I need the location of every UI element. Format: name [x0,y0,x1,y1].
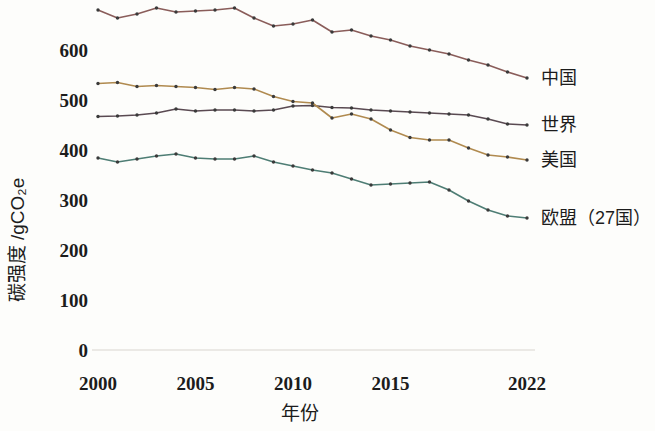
y-tick-label: 400 [60,140,89,161]
data-point [506,122,509,125]
data-point [311,101,314,104]
data-point [525,76,528,79]
data-point [369,108,372,111]
data-point [330,106,333,109]
series-line [98,154,527,218]
y-tick-label: 600 [60,40,89,61]
data-point [369,117,372,120]
data-point [116,16,119,19]
y-axis-tick-labels: 6005004003002001000 [60,40,89,361]
data-point [389,38,392,41]
data-point [116,160,119,163]
series-1 [96,104,528,127]
series-3 [96,152,528,219]
data-point [447,52,450,55]
data-point [252,154,255,157]
data-point [155,84,158,87]
data-point [408,136,411,139]
y-tick-label: 300 [60,190,89,211]
data-point [486,117,489,120]
data-point [272,24,275,27]
data-point [447,138,450,141]
data-point [369,183,372,186]
data-point [252,87,255,90]
data-point [467,113,470,116]
x-axis-title: 年份 [281,403,319,424]
series-line [98,106,527,126]
data-point [369,34,372,37]
data-point [525,123,528,126]
data-point [350,106,353,109]
data-point [272,160,275,163]
data-point [233,157,236,160]
legend-label[interactable]: 世界 [541,115,577,135]
x-tick-label: 2000 [79,373,117,394]
data-point [428,48,431,51]
data-point [213,8,216,11]
data-point [467,146,470,149]
data-point [291,22,294,25]
data-point [506,155,509,158]
data-point [525,216,528,219]
legend-label[interactable]: 中国 [541,68,577,88]
data-point [467,58,470,61]
legend-label[interactable]: 美国 [541,150,577,170]
data-point [135,85,138,88]
data-point [233,6,236,9]
y-tick-label: 200 [60,240,89,261]
data-point [272,95,275,98]
y-tick-label: 100 [60,290,89,311]
legend-label[interactable]: 欧盟（27国） [541,208,651,228]
data-point [428,138,431,141]
data-point [350,112,353,115]
x-tick-label: 2015 [372,373,410,394]
data-point [155,111,158,114]
data-point [428,111,431,114]
data-point [447,188,450,191]
x-axis-tick-labels: 20002005201020152022 [79,373,546,394]
data-point [116,81,119,84]
series-2 [96,81,528,162]
data-point [233,108,236,111]
data-point [311,18,314,21]
data-point [96,82,99,85]
line-chart: 6005004003002001000 20002005201020152022… [0,0,655,431]
data-point [525,158,528,161]
data-point [330,116,333,119]
data-point [311,168,314,171]
data-point [350,28,353,31]
data-point [135,157,138,160]
data-point [486,63,489,66]
data-point [428,180,431,183]
chart-legend: 中国世界美国欧盟（27国） [541,68,651,228]
data-point [96,115,99,118]
data-point [389,128,392,131]
data-point [96,156,99,159]
x-tick-label: 2022 [508,373,546,394]
data-point [174,152,177,155]
data-point [506,214,509,217]
data-point [174,107,177,110]
data-point [291,104,294,107]
series-line [98,83,527,161]
data-point [135,12,138,15]
data-point [408,110,411,113]
data-point [174,10,177,13]
data-point [506,70,509,73]
data-point [174,85,177,88]
x-tick-label: 2010 [274,373,312,394]
data-point [272,108,275,111]
data-point [96,8,99,11]
data-point [408,44,411,47]
data-point [408,181,411,184]
data-point [389,182,392,185]
data-point [330,30,333,33]
data-point [194,9,197,12]
data-point [213,108,216,111]
data-point [291,164,294,167]
y-tick-label: 0 [79,340,89,361]
data-point [213,88,216,91]
y-tick-label: 500 [60,90,89,111]
x-tick-label: 2005 [177,373,215,394]
data-point [350,177,353,180]
